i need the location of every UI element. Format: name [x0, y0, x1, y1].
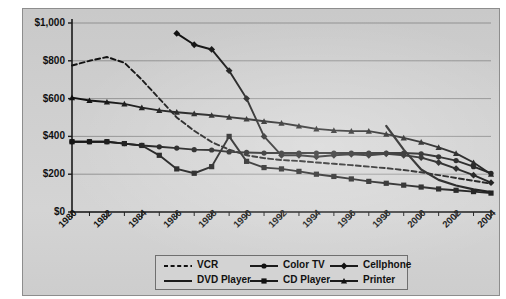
axis-ticks	[68, 23, 491, 218]
chart-legend: VCRColor TVCellphone DVD PlayerCD Player…	[155, 255, 408, 290]
circle-line-icon	[248, 258, 280, 274]
dashed-line-icon	[162, 258, 194, 274]
diamond-line-icon	[328, 258, 360, 274]
y-tick-label: $0	[23, 206, 65, 217]
solid-line-icon	[162, 273, 194, 289]
legend-label: CD Player	[283, 274, 330, 285]
series-cd-player	[69, 134, 493, 196]
y-tick-label: $600	[23, 93, 65, 104]
legend-label: Printer	[363, 274, 395, 285]
y-tick-label: $400	[23, 130, 65, 141]
line-chart-plot	[23, 9, 501, 297]
legend-label: Color TV	[283, 259, 325, 270]
y-tick-label: $1,000	[23, 17, 65, 28]
legend-label: Cellphone	[363, 259, 411, 270]
legend-row-1: VCRColor TVCellphone	[156, 258, 407, 274]
series-printer	[69, 95, 494, 177]
legend-row-2: DVD PlayerCD PlayerPrinter	[156, 273, 407, 289]
y-tick-label: $800	[23, 55, 65, 66]
series-layer	[69, 30, 495, 196]
legend-label: DVD Player	[197, 274, 251, 285]
series-cellphone	[173, 30, 494, 186]
legend-label: VCR	[197, 259, 218, 270]
triangle-line-icon	[328, 273, 360, 289]
square-line-icon	[248, 273, 280, 289]
chart-panel: $0$200$400$600$800$1,000 198019821984198…	[22, 8, 500, 296]
y-tick-label: $200	[23, 168, 65, 179]
axes	[72, 19, 491, 212]
chart-figure: $0$200$400$600$800$1,000 198019821984198…	[0, 0, 506, 299]
gridlines	[72, 23, 491, 212]
